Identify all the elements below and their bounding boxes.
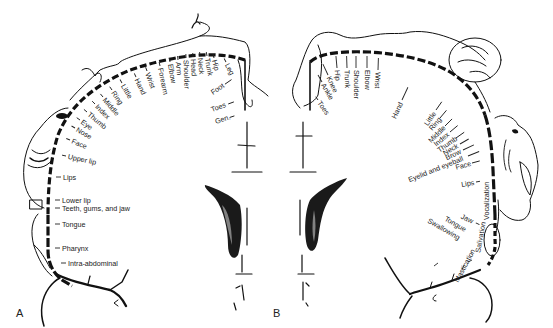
label-wrist-b: Wrist [373, 72, 383, 89]
homunculus-figure: Leg Hip Trunk Neck Head Shoulder Arm Elb… [0, 0, 553, 328]
panel-a-sensory: Leg Hip Trunk Neck Head Shoulder Arm Elb… [16, 14, 268, 326]
label-vocalization: Vocalization [482, 182, 491, 220]
label-foot: Foot [209, 81, 226, 97]
homunculus-body-b [293, 31, 538, 256]
label-teeth-gums-jaw: Teeth, gums, and jaw [62, 204, 131, 213]
label-elbow-b: Elbow [363, 70, 372, 90]
medial-labels-a: Foot Toes Gen. [209, 76, 236, 126]
label-pharynx: Pharynx [62, 244, 89, 253]
label-hip-b: Hip [333, 70, 343, 82]
arc-labels-b: Toes Ankle Knee Hip Trunk Shoulder Elbow… [312, 56, 481, 189]
label-gen: Gen. [214, 113, 232, 126]
cortex-base-b [385, 258, 492, 322]
lower-labels-b: Jaw Tongue Swallowing Mastication Saliva… [426, 182, 491, 284]
ventricle-a [205, 122, 262, 310]
panel-b-label: B [273, 307, 280, 319]
label-leg: Leg [223, 62, 237, 77]
label-lips-b: Lips [460, 178, 475, 189]
panel-b-motor: Toes Ankle Knee Hip Trunk Shoulder Elbow… [273, 31, 538, 322]
label-upper-lip: Upper lip [67, 152, 97, 167]
ventricle-b [290, 122, 347, 306]
label-toes-b: Toes [315, 99, 331, 117]
label-intra-abdominal: Intra-abdominal [68, 259, 118, 268]
cortex-base-a [42, 270, 128, 326]
vertical-labels-a: Lips Lower lip Teeth, gums, and jaw Tong… [55, 173, 131, 268]
label-toes: Toes [210, 100, 228, 114]
label-shoulder-b: Shoulder [352, 70, 361, 99]
label-hand-b: Hand [389, 101, 404, 120]
label-lips: Lips [63, 173, 77, 182]
label-tongue: Tongue [62, 220, 86, 229]
panel-a-label: A [16, 307, 24, 319]
label-trunk-b: Trunk [343, 70, 353, 89]
